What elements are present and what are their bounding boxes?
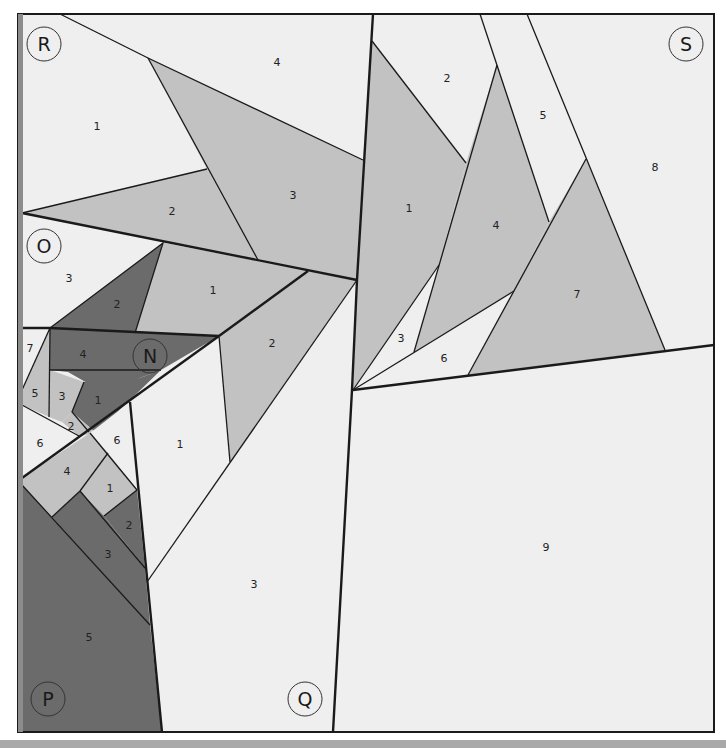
- section-letter-n-text: N: [143, 345, 157, 367]
- label-p3: 3: [105, 548, 112, 561]
- label-s4: 4: [493, 219, 500, 232]
- label-p6: 6: [114, 434, 121, 447]
- label-n1: 1: [95, 394, 102, 407]
- label-s7: 7: [574, 288, 581, 301]
- label-n3: 3: [59, 390, 66, 403]
- label-s9: 9: [543, 541, 550, 554]
- label-s6: 6: [441, 352, 448, 365]
- label-s5: 5: [540, 109, 547, 122]
- label-o3: 3: [66, 272, 73, 285]
- section-letter-o-text: O: [37, 235, 52, 257]
- section-letter-s-text: S: [680, 33, 692, 55]
- label-r3: 3: [290, 189, 297, 202]
- label-r1: 1: [94, 120, 101, 133]
- label-o2: 2: [114, 298, 121, 311]
- label-s1: 1: [406, 202, 413, 215]
- label-n5: 5: [32, 387, 39, 400]
- piece-s9: [333, 345, 714, 732]
- left-edge-strip: [18, 14, 23, 732]
- label-n6: 6: [37, 437, 44, 450]
- section-letter-r-text: R: [37, 33, 50, 55]
- label-p5: 5: [86, 631, 93, 644]
- label-s8: 8: [652, 161, 659, 174]
- label-n4: 4: [80, 348, 87, 361]
- label-s3: 3: [398, 332, 405, 345]
- foundation-pattern: R S O N P Q 1 2 3 4 1 2 3 1 2 3 4 5 6 7 …: [0, 0, 726, 740]
- label-q1: 1: [177, 438, 184, 451]
- label-n2: 2: [68, 420, 75, 433]
- section-letter-q-text: Q: [298, 688, 313, 710]
- label-q2: 2: [269, 337, 276, 350]
- label-n7: 7: [27, 342, 34, 355]
- label-p4: 4: [64, 465, 71, 478]
- section-letter-p-text: P: [42, 688, 53, 710]
- bottom-bar: [0, 740, 726, 748]
- label-p2: 2: [126, 519, 133, 532]
- label-s2: 2: [444, 72, 451, 85]
- label-r4: 4: [274, 56, 281, 69]
- label-r2: 2: [169, 205, 176, 218]
- label-p1: 1: [107, 482, 114, 495]
- section-s: [333, 14, 714, 732]
- label-q3: 3: [251, 578, 258, 591]
- label-o1: 1: [210, 284, 217, 297]
